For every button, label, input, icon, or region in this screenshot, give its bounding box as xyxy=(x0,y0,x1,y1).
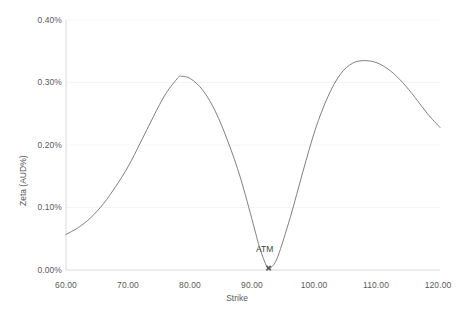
plot-area xyxy=(0,0,474,313)
atm-annotation-label: ATM xyxy=(256,244,273,254)
gridlines xyxy=(66,20,440,270)
data-line-zeta xyxy=(66,61,440,269)
zeta-strike-chart: Zeta (AUD%) 0.40% 0.30% 0.20% 0.10% 0.00… xyxy=(0,0,474,313)
